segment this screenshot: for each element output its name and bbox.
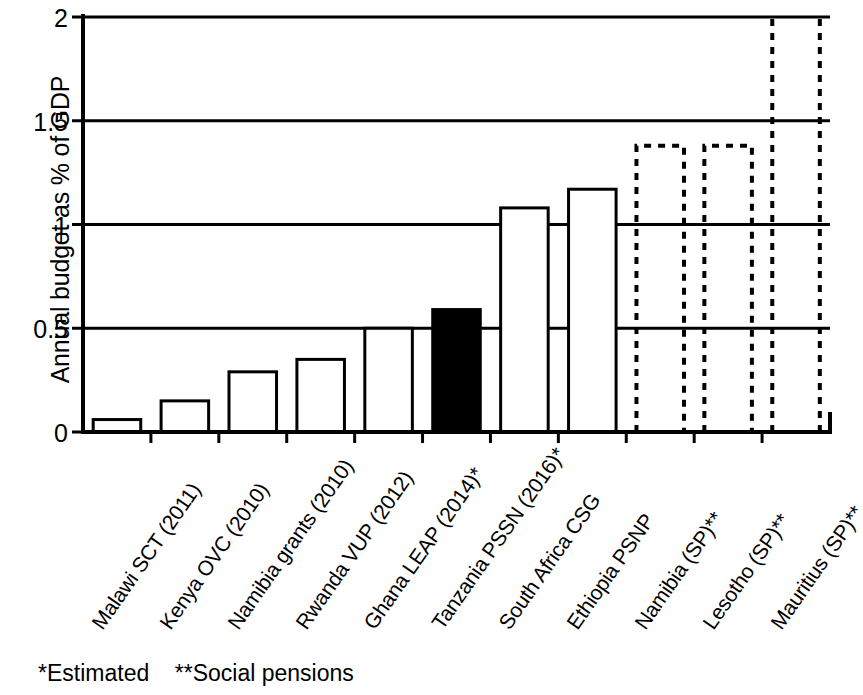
bar-open xyxy=(569,189,617,432)
bar xyxy=(161,401,209,432)
bar xyxy=(229,372,277,432)
bar xyxy=(365,328,413,432)
bar-series xyxy=(93,0,820,432)
bar xyxy=(772,0,820,432)
bar-filled xyxy=(433,310,481,432)
bar-open xyxy=(297,359,345,432)
bar xyxy=(636,146,684,432)
bar-open xyxy=(229,372,277,432)
bar-open xyxy=(501,208,549,432)
bar-open xyxy=(365,328,413,432)
bar-dashed xyxy=(704,146,752,432)
bar xyxy=(433,310,481,432)
bar xyxy=(704,146,752,432)
bar xyxy=(297,359,345,432)
footnote: *Estimated **Social pensions xyxy=(38,660,354,687)
bar xyxy=(569,189,617,432)
bar-open xyxy=(161,401,209,432)
bar-dashed xyxy=(636,146,684,432)
bar xyxy=(501,208,549,432)
gridlines xyxy=(83,17,830,328)
